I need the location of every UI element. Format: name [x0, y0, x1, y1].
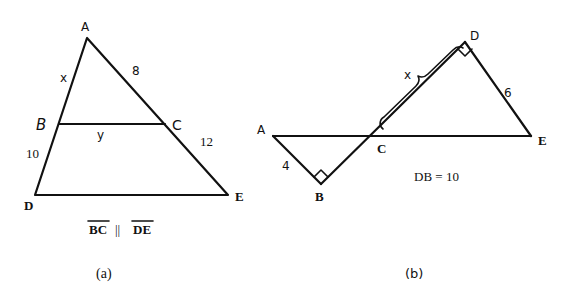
given-db: DB = 10 [414, 169, 459, 184]
vertex-label-d: D [24, 198, 33, 213]
segment-label-ab: x [60, 71, 67, 85]
segment-label-ac: 8 [132, 64, 140, 78]
vertex-label-e: E [235, 189, 244, 204]
vertex-label-e: E [538, 133, 547, 148]
caption-b: (b) [405, 266, 423, 281]
segment-label-bd: 10 [26, 146, 39, 161]
segment-label-cd: x [404, 68, 411, 82]
vertex-label-c: C [377, 141, 386, 156]
vertex-label-b: B [36, 116, 46, 134]
figure-a: A B C D E x 8 y 10 12 BC || DE (a) [24, 20, 244, 282]
right-angle-marker-d [458, 49, 472, 56]
segment-label-ce: 12 [200, 134, 213, 149]
segment-label-de: 6 [504, 86, 512, 100]
caption-a: (a) [96, 266, 112, 282]
parallel-relation: BC || DE [88, 221, 153, 237]
right-angle-marker-b [314, 170, 328, 177]
segment-label-bc: y [97, 128, 104, 142]
triangle-ade [35, 38, 228, 195]
segment-label-ab: 4 [282, 159, 290, 173]
brace-cd [380, 47, 463, 129]
segment-bd [321, 42, 465, 184]
vertex-label-c: C [172, 117, 182, 133]
vertex-label-d: D [470, 29, 479, 43]
relation-left: BC [89, 222, 107, 237]
vertex-label-a: A [257, 123, 266, 137]
vertex-label-a: A [81, 20, 90, 34]
segment-de [465, 42, 531, 136]
relation-symbol: || [115, 222, 120, 237]
relation-right: DE [133, 222, 151, 237]
vertex-label-b: B [315, 189, 324, 204]
figure-b: A B C D E 4 6 x DB = 10 (b) [257, 29, 547, 281]
geometry-figures: A B C D E x 8 y 10 12 BC || DE (a) [0, 0, 566, 300]
